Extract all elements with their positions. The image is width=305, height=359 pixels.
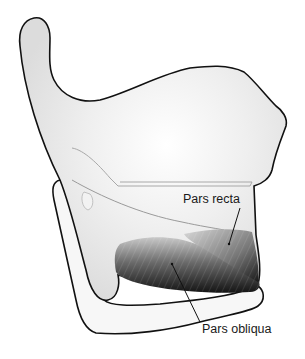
larynx-illustration: Pars recta Pars obliqua [0,0,305,359]
larynx-drawing [0,0,305,359]
pars-obliqua-label: Pars obliqua [202,322,272,336]
pars-recta-label: Pars recta [183,192,240,206]
